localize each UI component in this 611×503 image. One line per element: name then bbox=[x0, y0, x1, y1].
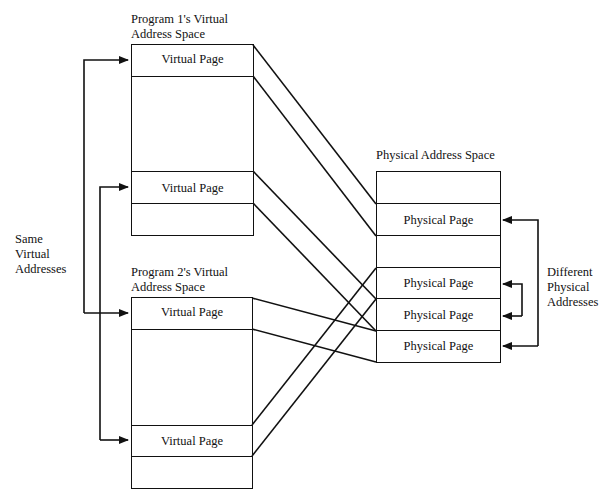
program1-title: Program 1's Virtual Address Space bbox=[131, 12, 228, 42]
mapping-line bbox=[253, 76, 376, 236]
physical-address-space-title: Physical Address Space bbox=[376, 148, 495, 163]
program2-title: Program 2's Virtual Address Space bbox=[131, 265, 228, 295]
different-address-bracket-outer bbox=[503, 220, 538, 346]
virtual-page: Virtual Page bbox=[132, 296, 252, 329]
physical-page: Physical Page bbox=[377, 330, 500, 362]
physical-region bbox=[377, 170, 500, 203]
physical-page: Physical Page bbox=[377, 267, 500, 299]
different-physical-addresses-label: Different Physical Addresses bbox=[547, 265, 598, 310]
virtual-page: Virtual Page bbox=[132, 43, 253, 76]
physical-region bbox=[377, 235, 500, 268]
virtual-region bbox=[132, 456, 252, 488]
virtual-region bbox=[132, 329, 252, 426]
mapping-line bbox=[253, 45, 376, 204]
virtual-page: Virtual Page bbox=[132, 425, 252, 457]
physical-page: Physical Page bbox=[377, 298, 500, 331]
virtual-region bbox=[132, 76, 253, 172]
physical-address-space: Physical Page Physical Page Physical Pag… bbox=[376, 171, 501, 363]
mapping-line bbox=[253, 203, 376, 331]
virtual-region bbox=[132, 203, 253, 235]
physical-page: Physical Page bbox=[377, 203, 500, 236]
mapping-line bbox=[252, 268, 376, 425]
mapping-line bbox=[252, 298, 376, 331]
mapping-line bbox=[252, 299, 376, 456]
mapping-line bbox=[253, 171, 376, 299]
different-address-bracket-inner bbox=[503, 284, 522, 316]
virtual-page: Virtual Page bbox=[132, 171, 253, 204]
connector-layer bbox=[0, 0, 611, 503]
program1-address-space: Virtual Page Virtual Page bbox=[131, 44, 254, 236]
same-virtual-addresses-label: Same Virtual Addresses bbox=[15, 232, 66, 277]
program2-address-space: Virtual Page Virtual Page bbox=[131, 297, 253, 489]
